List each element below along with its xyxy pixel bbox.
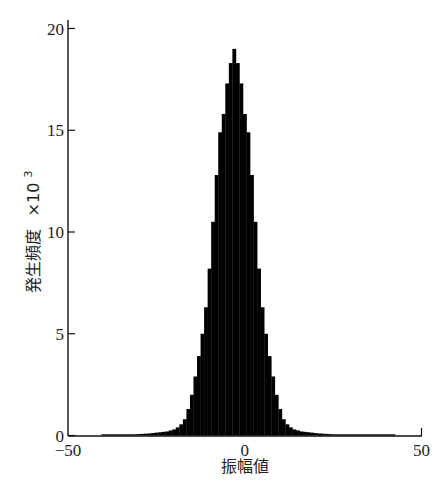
- histogram-bar: [271, 376, 275, 435]
- histogram-bar: [268, 356, 272, 435]
- histogram-bar: [300, 431, 304, 435]
- histogram-bar: [158, 432, 162, 435]
- histogram-bar: [314, 433, 318, 435]
- histogram-bar: [289, 427, 293, 435]
- histogram-bar: [222, 114, 226, 436]
- svg-text:発生頻度 ×10 3: 発生頻度 ×10 3: [22, 171, 43, 294]
- histogram-bars: [102, 49, 396, 436]
- y-axis-title-exponent: 3: [22, 171, 35, 178]
- y-tick-label: 10: [47, 223, 64, 242]
- histogram-bar: [148, 433, 152, 435]
- y-axis-title-multiplier: ×10: [24, 183, 43, 217]
- histogram-bar: [254, 222, 258, 436]
- histogram-bar: [211, 222, 215, 436]
- y-tick-label: 5: [56, 325, 65, 344]
- histogram-bar: [165, 431, 169, 435]
- histogram-bar: [162, 432, 166, 436]
- histogram-bar: [190, 395, 194, 436]
- histogram-bar: [208, 269, 212, 436]
- histogram-bar: [151, 433, 155, 435]
- histogram-bar: [321, 434, 325, 436]
- histogram-bar: [155, 433, 159, 436]
- histogram-bar: [310, 433, 314, 436]
- histogram-bar: [324, 434, 328, 436]
- x-axis-title: 振幅値: [221, 457, 269, 476]
- histogram-bar: [225, 83, 229, 435]
- histogram-bar: [144, 434, 148, 436]
- histogram-bar: [172, 429, 176, 435]
- histogram-bar: [176, 427, 180, 435]
- histogram-bar: [257, 269, 261, 436]
- histogram-bar: [275, 395, 279, 436]
- histogram-bar: [140, 434, 144, 436]
- histogram-bar: [247, 132, 251, 435]
- y-tick-label: 15: [47, 121, 64, 140]
- histogram-bar: [278, 409, 282, 435]
- histogram-bar: [261, 307, 265, 435]
- y-axis-title: 発生頻度 ×10 3: [22, 171, 43, 294]
- histogram-bar: [317, 433, 321, 435]
- histogram-bar: [296, 430, 300, 435]
- histogram-bar: [282, 419, 286, 435]
- histogram-chart: 05101520 −50050 振幅値 発生頻度 ×10 3: [0, 0, 448, 495]
- x-tick-label: −50: [55, 441, 82, 460]
- y-tick-label: 20: [47, 20, 64, 39]
- histogram-bar: [204, 307, 208, 435]
- histogram-bar: [250, 175, 254, 435]
- histogram-bar: [169, 430, 173, 435]
- histogram-bar: [285, 424, 289, 435]
- histogram-bar: [183, 419, 187, 435]
- x-tick-label: 50: [413, 441, 430, 460]
- histogram-bar: [232, 49, 236, 436]
- y-axis-ticks: 05101520: [47, 20, 75, 446]
- histogram-bar: [236, 63, 240, 435]
- histogram-bar: [239, 83, 243, 435]
- histogram-bar: [215, 175, 219, 435]
- histogram-bar: [201, 334, 205, 436]
- histogram-bar: [328, 434, 332, 435]
- histogram-bar: [186, 409, 190, 435]
- histogram-bar: [292, 429, 296, 435]
- histogram-bar: [303, 432, 307, 436]
- histogram-bar: [179, 424, 183, 435]
- histogram-bar: [137, 434, 141, 435]
- histogram-bar: [307, 432, 311, 435]
- y-axis-title-main: 発生頻度: [24, 229, 43, 293]
- histogram-bar: [264, 334, 268, 436]
- histogram-bar: [218, 132, 222, 435]
- histogram-bar: [229, 63, 233, 435]
- histogram-bar: [243, 114, 247, 436]
- histogram-bar: [193, 376, 197, 435]
- histogram-bar: [197, 356, 201, 435]
